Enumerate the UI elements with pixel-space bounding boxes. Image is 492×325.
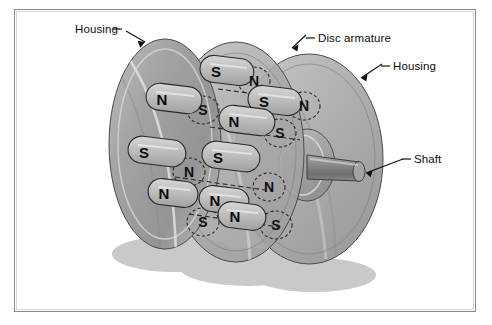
figure-frame: N S N S N N S S S N S N S S N N N — [0, 0, 492, 325]
pole-letter: S — [259, 93, 269, 110]
pole-letter: S — [213, 149, 223, 166]
pole-letter: N — [229, 113, 240, 130]
pole-letter: N — [230, 208, 241, 225]
pole-letter: S — [271, 217, 280, 233]
pole-letter: N — [159, 185, 170, 202]
pole-letter: N — [184, 164, 194, 180]
pole-letter: N — [210, 192, 221, 209]
pole-letter: N — [299, 98, 309, 114]
motor-illustration: N S N S N N S S S N S N S S N N N — [14, 9, 476, 312]
leader-disc-armature — [292, 35, 306, 48]
label-shaft: Shaft — [414, 153, 441, 165]
leader-housing-left — [126, 31, 145, 42]
pole-letter: S — [275, 125, 284, 141]
label-housing-right: Housing — [393, 60, 436, 72]
pole-letter: S — [139, 144, 149, 161]
pole-letter: N — [157, 91, 168, 108]
pole-letter: N — [249, 73, 259, 89]
label-disc-armature: Disc armature — [318, 32, 391, 44]
pole-letter: N — [264, 179, 274, 195]
label-housing-left: Housing — [75, 23, 118, 35]
pole-letter: S — [198, 214, 207, 230]
pole-letter: S — [211, 63, 221, 80]
leader-housing-right — [361, 64, 382, 78]
pole-letter: S — [198, 102, 207, 118]
